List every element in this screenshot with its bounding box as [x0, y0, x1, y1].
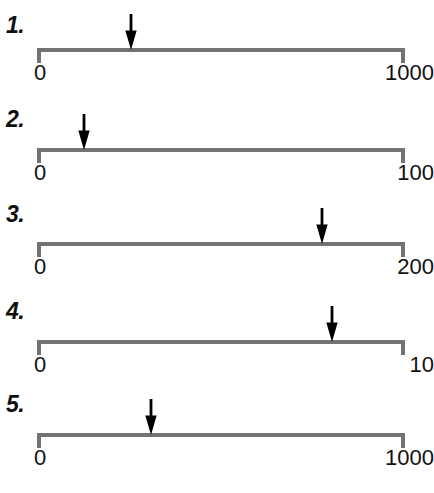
number-line-end-label: 100: [397, 162, 434, 184]
number-line-start-label: 0: [34, 162, 46, 184]
item-index-label: 5.: [6, 393, 24, 416]
number-line-end-label: 1000: [385, 447, 434, 469]
number-line-start-label: 0: [34, 256, 46, 278]
number-line-start-label: 0: [34, 62, 46, 84]
number-line-end-label: 200: [397, 256, 434, 278]
number-line-track: [37, 148, 405, 152]
number-line-end-label: 1000: [385, 62, 434, 84]
number-line-track: [37, 340, 405, 344]
item-index-label: 4.: [6, 300, 24, 323]
item-index-label: 3.: [6, 203, 24, 226]
down-arrow-icon: [123, 14, 138, 50]
down-arrow-icon: [325, 306, 340, 342]
number-line-start-label: 0: [34, 447, 46, 469]
number-line-start-label: 0: [34, 354, 46, 376]
number-line-track: [37, 242, 405, 246]
item-index-label: 1.: [6, 14, 24, 37]
down-arrow-icon: [77, 114, 92, 150]
item-index-label: 2.: [6, 108, 24, 131]
down-arrow-icon: [314, 208, 329, 244]
down-arrow-icon: [144, 399, 159, 435]
number-line-end-label: 10: [410, 354, 434, 376]
number-line-end-tick: [401, 340, 405, 355]
number-line-track: [37, 433, 405, 437]
number-line-track: [37, 48, 405, 52]
number-line-worksheet: 1.010002.01003.02004.0105.01000: [0, 0, 434, 493]
